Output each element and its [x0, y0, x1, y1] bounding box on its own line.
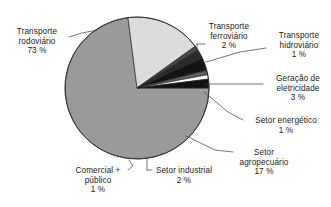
slice-label-percent: 2 %	[198, 41, 260, 51]
slice-label-line2: ferroviário	[210, 32, 248, 41]
slice-label-percent: 2 %	[148, 176, 220, 186]
pie-chart-figure: Transporte rodoviário 73 % Transporte fe…	[0, 0, 331, 207]
slice-label-line1: Transporte	[279, 31, 319, 40]
slice-label-line2: público	[85, 176, 112, 185]
leader-line-agropecuario	[186, 136, 233, 152]
slice-label-geracao-eletricidade: Geração de eletricidade 3 %	[266, 74, 330, 103]
slice-label-setor-energetico: Setor energético 1 %	[243, 116, 329, 135]
slice-label-line1: Setor energético	[255, 116, 317, 125]
slice-label-line2: rodoviário	[19, 37, 56, 46]
pie-slice-group	[65, 17, 209, 159]
slice-label-percent: 1 %	[243, 126, 329, 136]
slice-label-percent: 3 %	[266, 93, 330, 103]
slice-label-transporte-hidroviario: Transporte hidroviário 1 %	[268, 31, 330, 60]
slice-label-setor-industrial: Setor industrial 2 %	[148, 166, 220, 185]
slice-label-percent: 1 %	[268, 50, 330, 60]
slice-label-comercial-publico: Comercial + público 1 %	[62, 166, 134, 195]
slice-label-percent: 17 %	[234, 167, 294, 177]
slice-label-line1: Geração de	[276, 74, 320, 83]
slice-label-percent: 1 %	[62, 185, 134, 195]
slice-label-setor-agropecuario: Setor agropecuário 17 %	[234, 148, 294, 177]
slice-label-line1: Transporte	[17, 27, 57, 36]
slice-label-line1: Setor	[254, 148, 274, 157]
slice-label-line1: Transporte	[209, 22, 249, 31]
leader-line-energetico	[204, 92, 243, 120]
slice-label-line2: eletricidade	[276, 84, 319, 93]
slice-label-transporte-ferroviario: Transporte ferroviário 2 %	[198, 22, 260, 51]
slice-label-line2: hidroviário	[280, 41, 319, 50]
slice-label-line2: agropecuário	[240, 158, 289, 167]
slice-label-percent: 73 %	[6, 46, 68, 56]
slice-label-transporte-rodoviario: Transporte rodoviário 73 %	[6, 27, 68, 56]
slice-label-line1: Setor industrial	[156, 166, 212, 175]
slice-label-line1: Comercial +	[75, 166, 120, 175]
